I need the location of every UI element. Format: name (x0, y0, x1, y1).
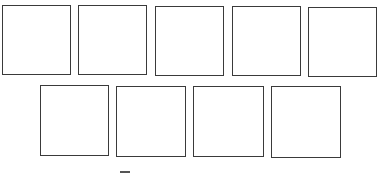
bottom-box-1 (40, 85, 109, 156)
partial-mark (120, 171, 130, 173)
top-box-3 (155, 6, 224, 76)
top-box-2 (78, 5, 147, 75)
bottom-box-3 (193, 86, 264, 157)
top-box-5 (308, 7, 377, 77)
top-box-4 (232, 6, 301, 76)
bottom-box-4 (271, 86, 341, 158)
top-box-1 (2, 5, 71, 75)
bottom-box-2 (116, 86, 186, 157)
